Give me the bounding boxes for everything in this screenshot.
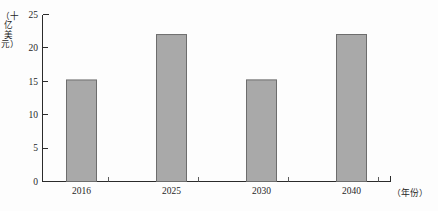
y-axis-tick-labels: 0 5 10 15 20 25 bbox=[29, 10, 39, 187]
y-axis-ticks bbox=[43, 15, 48, 182]
y-tick-label: 0 bbox=[33, 177, 38, 187]
category-label: 2030 bbox=[252, 186, 271, 196]
bar-2040 bbox=[337, 35, 367, 182]
bar-2016 bbox=[67, 80, 97, 182]
bar-series bbox=[67, 35, 367, 182]
bar-2030 bbox=[247, 80, 277, 182]
y-tick-label: 20 bbox=[29, 43, 39, 53]
y-tick-label: 10 bbox=[29, 110, 39, 120]
bar-chart-figure: （十亿美元） （年份） 0 5 10 15 20 25 bbox=[0, 0, 438, 211]
category-label: 2025 bbox=[162, 186, 181, 196]
y-tick-label: 25 bbox=[29, 10, 39, 20]
category-label: 2016 bbox=[72, 186, 91, 196]
category-label: 2040 bbox=[342, 186, 361, 196]
bar-2025 bbox=[157, 35, 187, 182]
chart-plot-area: 0 5 10 15 20 25 2016 2025 2030 2040 bbox=[0, 0, 438, 211]
x-axis-category-labels: 2016 2025 2030 2040 bbox=[72, 186, 361, 196]
y-tick-label: 15 bbox=[29, 77, 39, 87]
y-tick-label: 5 bbox=[33, 143, 38, 153]
